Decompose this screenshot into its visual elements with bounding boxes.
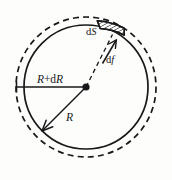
label-force-element: df [106,55,114,66]
label-inner-radius-R: R [66,111,73,123]
label-area-element: dS [86,27,97,38]
inner-radius-line [43,87,87,131]
label-area-element-S: S [91,26,96,37]
label-inner-radius: R [66,112,73,124]
label-outer-radius: R+dR [37,74,63,86]
label-force-element-f: f [111,54,114,65]
center-dot [82,83,89,90]
label-outer-radius-R1: R [37,73,44,85]
figure-container: R+dR R dS df [0,0,172,180]
label-outer-radius-R2: R [56,73,63,85]
